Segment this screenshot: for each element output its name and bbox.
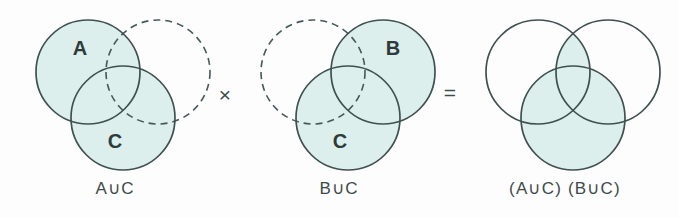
circle-label-b: B: [386, 37, 400, 59]
circle-label-c: C: [333, 130, 347, 152]
caption-result: (A∪C) (B∪C): [452, 178, 678, 199]
circle-label-a: A: [73, 37, 87, 59]
circle-b: [556, 20, 660, 124]
operator-equals: =: [438, 82, 462, 103]
shaded-region-result: [521, 20, 660, 170]
circle-a: [486, 20, 590, 124]
operator-multiply: ×: [214, 84, 236, 105]
shaded-region-a-union-c: [36, 20, 175, 170]
venn-svg-a-union-c: A C: [0, 0, 226, 180]
caption-a-union-c: A∪C: [0, 178, 328, 199]
shaded-region-b-union-c: [296, 20, 435, 170]
panel-a-union-c: A C A∪C: [0, 0, 226, 218]
venn-diagram-figure: A C A∪C × B C B∪C =: [0, 0, 678, 218]
circle-c: [521, 66, 625, 170]
circle-a-dashed: [261, 20, 365, 124]
circle-label-c: C: [108, 130, 122, 152]
circle-c: [296, 66, 400, 170]
circle-b: [331, 20, 435, 124]
